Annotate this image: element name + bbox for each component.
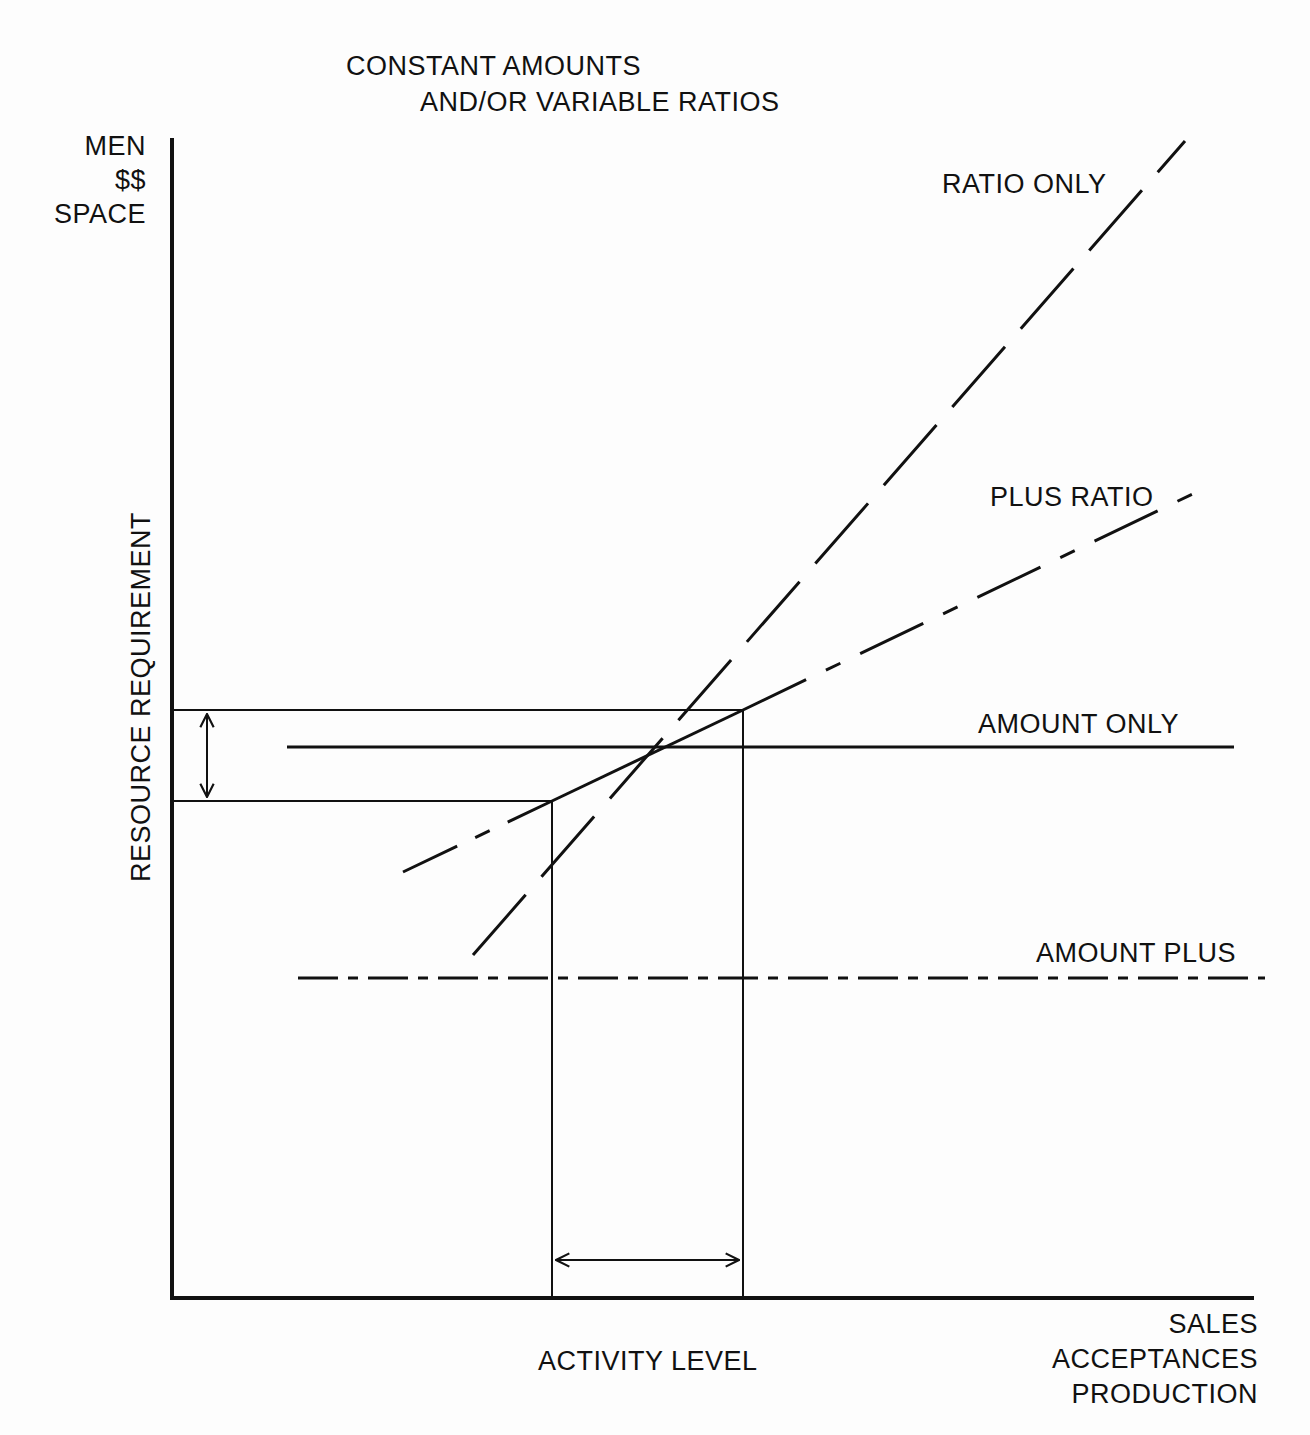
plus-ratio-line-lower [403,801,552,872]
x-unit-production: PRODUCTION [1072,1379,1259,1409]
plus-ratio-line-middle [552,710,743,801]
y-unit-men: MEN [85,131,147,161]
plus-ratio-line-upper [743,489,1203,710]
y-unit-dollars: $$ [115,165,146,195]
y-axis-label: RESOURCE REQUIREMENT [126,512,156,882]
chart-title-line-2: AND/OR VARIABLE RATIOS [420,87,780,117]
ratio-only-line [473,141,1185,955]
plus-ratio-label: PLUS RATIO [990,482,1154,512]
y-unit-space: SPACE [54,199,146,229]
x-unit-acceptances: ACCEPTANCES [1052,1344,1258,1374]
amount-only-label: AMOUNT ONLY [978,709,1179,739]
ratio-only-label: RATIO ONLY [942,169,1107,199]
chart-title-line-1: CONSTANT AMOUNTS [346,51,641,81]
x-unit-sales: SALES [1168,1309,1258,1339]
chart-canvas: CONSTANT AMOUNTS AND/OR VARIABLE RATIOS … [0,0,1310,1435]
x-axis-label: ACTIVITY LEVEL [538,1346,758,1376]
amount-plus-label: AMOUNT PLUS [1036,938,1236,968]
